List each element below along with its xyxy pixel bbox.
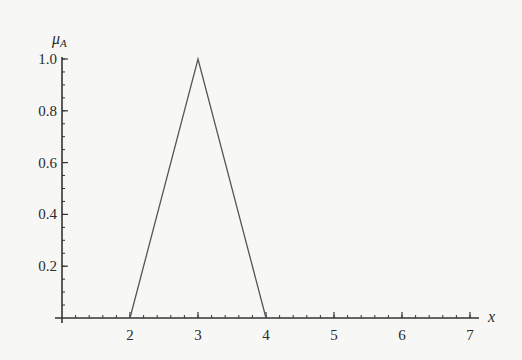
x-axis-label: x — [487, 308, 495, 325]
minor-ticks — [62, 59, 470, 318]
x-tick-label: 6 — [398, 327, 406, 343]
x-tick-label: 7 — [466, 327, 474, 343]
y-axis-label-sub: A — [59, 37, 67, 49]
y-tick-label: 0.4 — [38, 206, 57, 222]
y-tick-label: 0.2 — [38, 258, 57, 274]
y-tick-label: 1.0 — [38, 51, 57, 67]
y-axis-label: μA — [51, 30, 67, 49]
triangle-series-line — [130, 59, 266, 318]
x-tick-label: 4 — [262, 327, 270, 343]
membership-function-chart: 234567 0.20.40.60.81.0 x μA — [0, 0, 522, 360]
major-ticks — [62, 59, 470, 318]
x-tick-label: 3 — [194, 327, 202, 343]
y-axis-label-main: μ — [51, 30, 60, 48]
y-tick-labels: 0.20.40.60.81.0 — [38, 51, 57, 274]
x-tick-label: 5 — [330, 327, 338, 343]
x-tick-label: 2 — [126, 327, 134, 343]
y-tick-label: 0.6 — [38, 155, 57, 171]
x-tick-labels: 234567 — [126, 327, 474, 343]
y-tick-label: 0.8 — [38, 103, 57, 119]
